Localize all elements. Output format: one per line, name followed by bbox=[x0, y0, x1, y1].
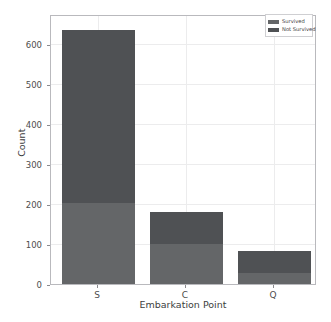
chart-legend[interactable]: Survived Not Survived bbox=[265, 14, 313, 37]
bar-s-not-survived[interactable] bbox=[62, 30, 135, 203]
bar-c[interactable] bbox=[150, 212, 223, 284]
y-tick-label-600: 600 bbox=[2, 41, 42, 50]
y-tick-label-100: 100 bbox=[2, 241, 42, 250]
x-tick-mark-c bbox=[185, 285, 186, 288]
legend-swatch-icon-survived bbox=[268, 20, 279, 24]
legend-label-survived: Survived bbox=[282, 19, 305, 24]
plot-area bbox=[50, 15, 316, 285]
x-tick-label-q: Q bbox=[253, 291, 293, 300]
y-tick-mark-0 bbox=[47, 285, 50, 286]
gridline-x-q bbox=[274, 16, 275, 284]
bar-s-survived[interactable] bbox=[62, 203, 135, 284]
legend-swatch-icon-not-survived bbox=[268, 28, 279, 32]
y-tick-label-200: 200 bbox=[2, 201, 42, 210]
bar-c-survived[interactable] bbox=[150, 244, 223, 284]
y-tick-label-400: 400 bbox=[2, 121, 42, 130]
bar-s[interactable] bbox=[62, 30, 135, 284]
x-tick-label-s: S bbox=[77, 291, 117, 300]
bar-q-survived[interactable] bbox=[238, 273, 311, 284]
legend-item-survived[interactable]: Survived bbox=[268, 18, 310, 25]
x-axis-label: Embarkation Point bbox=[50, 300, 316, 310]
bar-c-not-survived[interactable] bbox=[150, 212, 223, 244]
x-tick-mark-s bbox=[97, 285, 98, 288]
chart-figure: Count 0 100 200 300 400 500 600 bbox=[0, 0, 331, 322]
bar-q-not-survived[interactable] bbox=[238, 251, 311, 273]
x-tick-mark-q bbox=[273, 285, 274, 288]
legend-item-not-survived[interactable]: Not Survived bbox=[268, 26, 310, 33]
y-tick-label-500: 500 bbox=[2, 81, 42, 90]
y-tick-label-300: 300 bbox=[2, 161, 42, 170]
bar-q[interactable] bbox=[238, 251, 311, 284]
y-tick-label-0: 0 bbox=[2, 281, 42, 290]
legend-label-not-survived: Not Survived bbox=[282, 27, 316, 32]
